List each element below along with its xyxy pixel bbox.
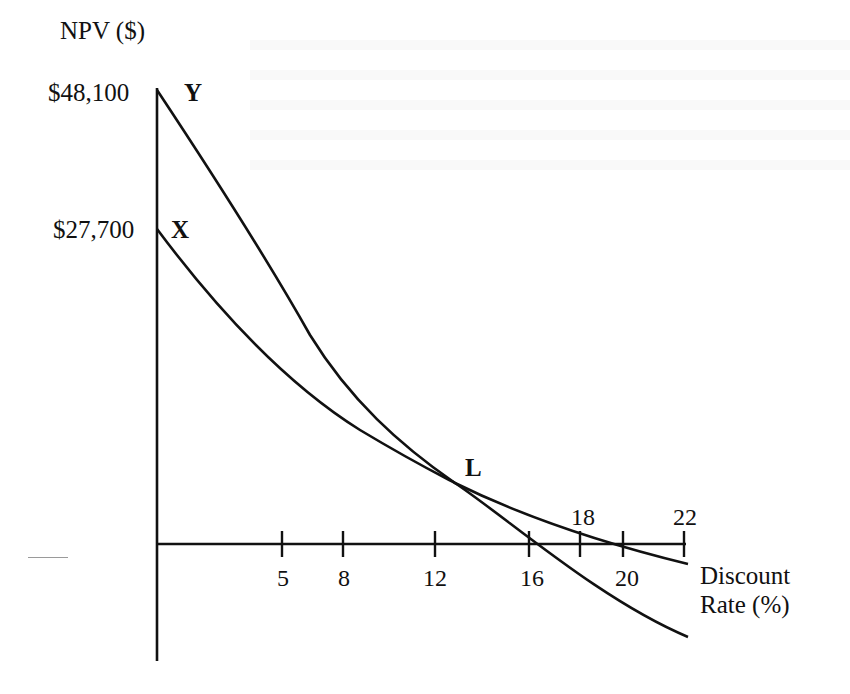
npv-curve-x xyxy=(157,229,688,564)
y-value-high-label: $48,100 xyxy=(48,80,129,105)
tick-label-12: 12 xyxy=(423,566,447,590)
series-label-y: Y xyxy=(184,80,202,105)
series-label-x: X xyxy=(171,217,189,242)
x-axis-title-line1: Discount xyxy=(700,563,790,588)
crossover-label: L xyxy=(465,455,482,480)
tick-label-20: 20 xyxy=(615,566,639,590)
y-value-low-label: $27,700 xyxy=(53,217,134,242)
npv-curve-y xyxy=(157,90,688,637)
x-axis-title-line2: Rate (%) xyxy=(700,592,790,617)
tick-label-8: 8 xyxy=(338,566,350,590)
tick-label-16: 16 xyxy=(520,566,544,590)
tick-label-18: 18 xyxy=(571,505,595,529)
tick-label-22: 22 xyxy=(673,505,697,529)
tick-label-5: 5 xyxy=(277,566,289,590)
y-axis-title: NPV ($) xyxy=(60,18,145,43)
